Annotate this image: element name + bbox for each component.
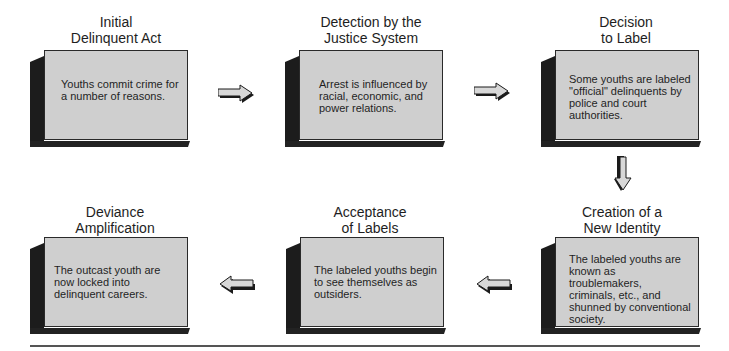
stage-2-description: Arrest is influenced by racial, economic…	[319, 78, 443, 114]
stage-6-title-line-1: Deviance	[20, 204, 210, 220]
box-side-shadow	[30, 243, 44, 334]
box-bottom-shadow	[30, 141, 190, 147]
arrow-right-icon	[218, 84, 256, 104]
stage-4-description: The labeled youths are known as troublem…	[569, 253, 691, 325]
stage-6-description: The outcast youth are now locked into de…	[54, 264, 182, 300]
box-bottom-shadow	[541, 328, 701, 334]
stage-5-title: Acceptance of Labels	[275, 204, 465, 236]
stage-6-title: Deviance Amplification	[20, 204, 210, 236]
stage-5-title-line-2: of Labels	[275, 220, 465, 236]
arrow-left-icon	[476, 275, 514, 295]
stage-2-title-line-2: Justice System	[276, 30, 466, 46]
arrow-down-icon	[613, 156, 633, 194]
stage-3-description: Some youths are labeled "official" delin…	[569, 73, 693, 121]
stage-4-title-line-1: Creation of a	[527, 204, 717, 220]
arrow-left-icon	[219, 275, 257, 295]
box-side-shadow	[286, 243, 300, 334]
stage-5-title-line-1: Acceptance	[275, 204, 465, 220]
stage-1-title: Initial Delinquent Act	[21, 14, 211, 46]
stage-1-title-line-1: Initial	[21, 14, 211, 30]
box-side-shadow	[285, 56, 299, 147]
stage-3-title-line-1: Decision	[531, 14, 721, 30]
stage-3-title-line-2: to Label	[531, 30, 721, 46]
stage-4-box: The labeled youths are known as troublem…	[541, 237, 701, 334]
stage-2-box: Arrest is influenced by racial, economic…	[285, 50, 445, 147]
stage-4-title-line-2: New Identity	[527, 220, 717, 236]
stage-3-title: Decision to Label	[531, 14, 721, 46]
labeling-process-diagram: Initial Delinquent Act Youths commit cri…	[0, 0, 729, 351]
box-bottom-shadow	[541, 141, 701, 147]
stage-1-description: Youths commit crime for a number of reas…	[61, 78, 185, 102]
stage-2-title-line-1: Detection by the	[276, 14, 466, 30]
box-bottom-shadow	[30, 328, 190, 334]
box-side-shadow	[30, 56, 44, 147]
stage-2-title: Detection by the Justice System	[276, 14, 466, 46]
stage-6-box: The outcast youth are now locked into de…	[30, 237, 190, 334]
stage-5-description: The labeled youths begin to see themselv…	[314, 264, 438, 300]
stage-1-box: Youths commit crime for a number of reas…	[30, 50, 190, 147]
stage-3-box: Some youths are labeled "official" delin…	[541, 50, 701, 147]
box-bottom-shadow	[286, 328, 446, 334]
arrow-right-icon	[474, 82, 512, 102]
stage-1-title-line-2: Delinquent Act	[21, 30, 211, 46]
box-side-shadow	[541, 243, 555, 334]
box-side-shadow	[541, 56, 555, 147]
stage-6-title-line-2: Amplification	[20, 220, 210, 236]
stage-5-box: The labeled youths begin to see themselv…	[286, 237, 446, 334]
bottom-divider-rule	[30, 345, 700, 347]
stage-4-title: Creation of a New Identity	[527, 204, 717, 236]
box-bottom-shadow	[285, 141, 445, 147]
